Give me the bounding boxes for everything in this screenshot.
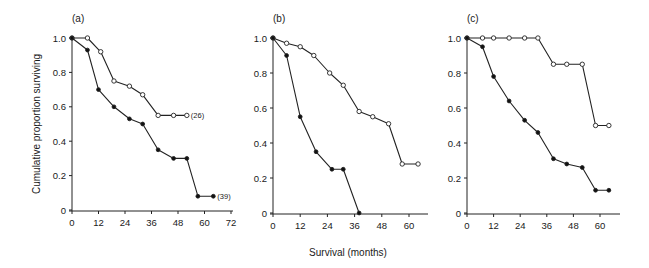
y-tick-label: 0.6	[254, 103, 267, 114]
open-circle-marker	[341, 83, 345, 87]
open-circle-marker	[386, 122, 390, 126]
x-tick-label: 12	[93, 217, 104, 228]
filled-circle-marker	[97, 88, 101, 92]
filled-circle-marker	[330, 167, 334, 171]
open-circle-marker	[127, 84, 131, 88]
open-circle-marker	[171, 113, 175, 117]
filled-circle-marker	[141, 122, 145, 126]
x-tick-label: 36	[542, 220, 553, 231]
filled-circle-marker	[536, 131, 540, 135]
filled-circle-marker	[172, 157, 176, 161]
filled-circle-marker	[465, 36, 469, 40]
filled-circle-marker	[86, 48, 90, 52]
filled-circle-marker	[70, 36, 74, 40]
panel-label: (c)	[467, 13, 479, 24]
filled-circle-marker	[552, 157, 556, 161]
filled-circle-marker	[523, 118, 527, 122]
series-line-filled	[467, 38, 609, 190]
y-tick-label: 0.6	[53, 101, 66, 112]
open-circle-marker	[416, 162, 420, 166]
panel-label: (b)	[273, 13, 285, 24]
open-circle-marker	[580, 62, 584, 66]
survival-figure: Cumulative proportion surviving (a)00.20…	[0, 0, 649, 268]
y-tick-label: 0.4	[53, 136, 66, 147]
y-tick-label: 0.6	[448, 103, 461, 114]
filled-circle-marker	[507, 99, 511, 103]
open-circle-marker	[327, 71, 331, 75]
open-circle-marker	[298, 45, 302, 49]
x-tick-label: 12	[488, 220, 499, 231]
open-circle-marker	[536, 36, 540, 40]
panel-a: (a)00.20.40.60.81.00122436486072(26)(39)	[53, 13, 237, 228]
x-tick-label: 48	[173, 217, 184, 228]
series-line-filled	[273, 38, 359, 213]
open-circle-marker	[491, 36, 495, 40]
open-circle-marker	[507, 36, 511, 40]
x-tick-label: 36	[146, 217, 157, 228]
open-circle-marker	[593, 123, 597, 127]
y-tick-label: 0.8	[53, 67, 66, 78]
open-circle-marker	[185, 113, 189, 117]
series-count-annotation: (26)	[191, 111, 205, 120]
panel-c: (c)00.20.40.60.81.001224364860	[448, 13, 620, 231]
y-tick-label: 0.8	[254, 68, 267, 79]
open-circle-marker	[284, 41, 288, 45]
y-tick-label: 1.0	[448, 33, 461, 44]
x-tick-label: 60	[199, 217, 210, 228]
x-tick-label: 24	[322, 220, 333, 231]
y-tick-label: 0	[456, 208, 461, 219]
filled-circle-marker	[607, 188, 611, 192]
x-tick-label: 48	[377, 220, 388, 231]
x-tick-label: 0	[69, 217, 74, 228]
x-tick-label: 48	[568, 220, 579, 231]
x-tick-label: 72	[226, 217, 237, 228]
filled-circle-marker	[341, 167, 345, 171]
open-circle-marker	[85, 36, 89, 40]
filled-circle-marker	[128, 117, 132, 121]
x-tick-label: 12	[295, 220, 306, 231]
series-line-open	[273, 38, 418, 164]
y-tick-label: 1.0	[254, 33, 267, 44]
y-tick-label: 0.2	[53, 170, 66, 181]
filled-circle-marker	[271, 36, 275, 40]
filled-circle-marker	[285, 54, 289, 58]
y-tick-label: 0.8	[448, 68, 461, 79]
filled-circle-marker	[185, 157, 189, 161]
filled-circle-marker	[211, 194, 215, 198]
open-circle-marker	[99, 50, 103, 54]
y-tick-label: 0.4	[254, 138, 267, 149]
open-circle-marker	[312, 53, 316, 57]
y-tick-label: 0.4	[448, 138, 461, 149]
open-circle-marker	[522, 36, 526, 40]
panel-label: (a)	[72, 13, 84, 24]
open-circle-marker	[400, 162, 404, 166]
filled-circle-marker	[156, 148, 160, 152]
open-circle-marker	[565, 62, 569, 66]
x-tick-label: 0	[270, 220, 275, 231]
open-circle-marker	[357, 109, 361, 113]
filled-circle-marker	[196, 194, 200, 198]
filled-circle-marker	[298, 115, 302, 119]
panel-b: (b)00.20.40.60.81.001224364860	[254, 13, 428, 231]
filled-circle-marker	[357, 211, 361, 215]
filled-circle-marker	[594, 188, 598, 192]
filled-circle-marker	[481, 45, 485, 49]
y-tick-label: 0.2	[448, 173, 461, 184]
x-tick-label: 0	[464, 220, 469, 231]
open-circle-marker	[371, 115, 375, 119]
open-circle-marker	[480, 36, 484, 40]
x-tick-label: 24	[515, 220, 526, 231]
filled-circle-marker	[112, 105, 116, 109]
filled-circle-marker	[314, 150, 318, 154]
x-tick-label: 24	[120, 217, 131, 228]
y-tick-label: 0	[262, 208, 267, 219]
open-circle-marker	[607, 123, 611, 127]
open-circle-marker	[140, 93, 144, 97]
x-tick-label: 36	[349, 220, 360, 231]
filled-circle-marker	[492, 75, 496, 79]
x-tick-label: 60	[404, 220, 415, 231]
y-tick-label: 1.0	[53, 33, 66, 44]
x-tick-label: 60	[595, 220, 606, 231]
open-circle-marker	[112, 79, 116, 83]
x-axis-label: Survival (months)	[309, 247, 387, 258]
